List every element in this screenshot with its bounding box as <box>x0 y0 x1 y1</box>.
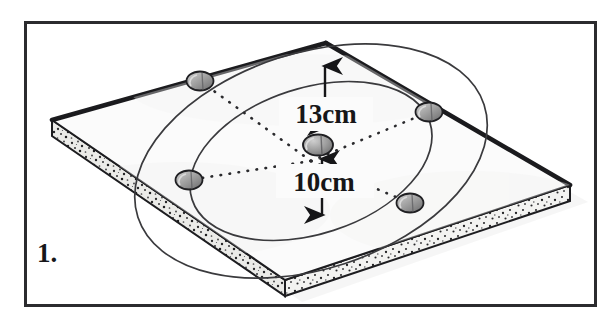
peg-top-left <box>187 72 214 91</box>
figure-canvas: 13cm 10cm 1. <box>0 0 615 319</box>
board-diagram-svg: 13cm 10cm <box>0 0 615 319</box>
dimension-13cm-label: 13cm <box>295 99 357 129</box>
peg-top-right <box>416 103 443 122</box>
peg-center <box>303 135 333 156</box>
dimension-10cm-label: 10cm <box>293 167 355 197</box>
question-number: 1. <box>37 240 57 267</box>
peg-bottom-left <box>176 171 203 190</box>
peg-bottom-right <box>397 194 424 213</box>
